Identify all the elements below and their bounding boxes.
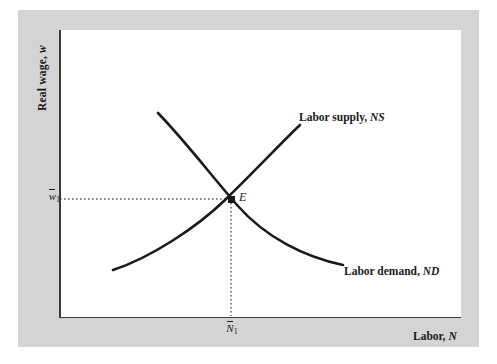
y-axis-tick-label: w1	[38, 190, 60, 204]
curves-layer	[0, 0, 497, 364]
y-axis-title: Real wage, w	[36, 18, 48, 138]
labor-market-diagram: E Labor supply, NS Labor demand, ND Real…	[0, 0, 497, 364]
labor-supply-label: Labor supply, NS	[299, 111, 385, 123]
labor-supply-curve	[113, 125, 300, 270]
x-axis-tick-label: N1	[215, 322, 249, 336]
labor-supply-label-variable: NS	[370, 111, 385, 123]
y-axis-title-variable: w	[36, 45, 48, 53]
labor-demand-label-text: Labor demand,	[344, 265, 420, 277]
x-axis-title: Labor, N	[413, 330, 457, 342]
y-axis-title-text: Real wage,	[36, 56, 48, 111]
labor-supply-label-text: Labor supply,	[299, 111, 367, 123]
x-axis-title-variable: N	[448, 330, 456, 342]
labor-demand-label-variable: ND	[423, 265, 440, 277]
labor-demand-curve	[158, 113, 343, 265]
x-axis-title-text: Labor,	[413, 330, 446, 342]
y-tick-variable: w	[49, 190, 56, 202]
y-tick-subscript: 1	[56, 195, 60, 204]
x-tick-variable: N	[226, 322, 233, 334]
x-tick-subscript: 1	[234, 327, 238, 336]
equilibrium-point-marker	[228, 196, 235, 203]
labor-demand-label: Labor demand, ND	[344, 265, 439, 277]
equilibrium-point-label: E	[239, 190, 246, 205]
